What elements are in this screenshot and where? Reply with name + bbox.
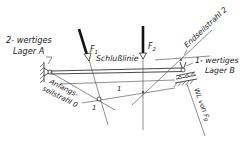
lager-a-leader	[46, 57, 52, 64]
intersection-point-2	[142, 91, 144, 93]
support-b	[174, 62, 197, 87]
intersection-point-b	[180, 59, 182, 61]
support-a-hatch	[40, 63, 44, 83]
helper-line-mid	[60, 80, 175, 84]
ray-1	[82, 88, 175, 103]
closing-line	[51, 68, 183, 74]
start-ray-0	[50, 72, 115, 110]
lager-b-label-1: 1- wertiges	[195, 56, 239, 65]
ray-1-upper-label: 1	[117, 85, 121, 93]
support-b-ground	[175, 79, 197, 83]
closing-line-label: Schlußlinie	[96, 54, 139, 63]
support-b-pin	[181, 68, 185, 72]
lager-a-label-1: 2- wertiges	[6, 35, 53, 45]
force-f2-label: F2	[148, 42, 157, 52]
lager-a-label-2: Lager A	[13, 46, 45, 56]
lager-b-label-2: Lager B	[205, 66, 235, 75]
end-ray-label: Endseilstrahl 2	[182, 5, 229, 50]
seileck-diagram: 2- wertiges Lager A F1 F2 Schlußlinie An…	[0, 0, 247, 152]
line-of-action-fb-label: WL von FB	[192, 87, 212, 123]
lager-b-leader	[186, 63, 193, 66]
intersection-point-1	[97, 97, 101, 101]
ray-1-lower-label: 1	[92, 104, 96, 112]
force-f2-arrow	[140, 26, 147, 59]
